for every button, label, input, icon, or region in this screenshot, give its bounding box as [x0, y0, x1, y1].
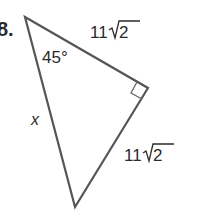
triangle	[25, 17, 148, 207]
side-right-coefficient: 11	[124, 146, 142, 165]
side-top-coefficient: 11	[90, 23, 108, 42]
side-left-label: x	[30, 111, 40, 128]
side-top-radicand: 2	[119, 23, 128, 42]
triangle-diagram: 8. 45° 11 2 11 2 x	[0, 0, 197, 215]
side-right-radicand: 2	[153, 146, 162, 165]
side-right-label: 11 2	[124, 144, 174, 165]
problem-number: 8.	[0, 18, 14, 40]
side-top-label: 11 2	[90, 21, 140, 42]
angle-label: 45°	[42, 48, 68, 67]
